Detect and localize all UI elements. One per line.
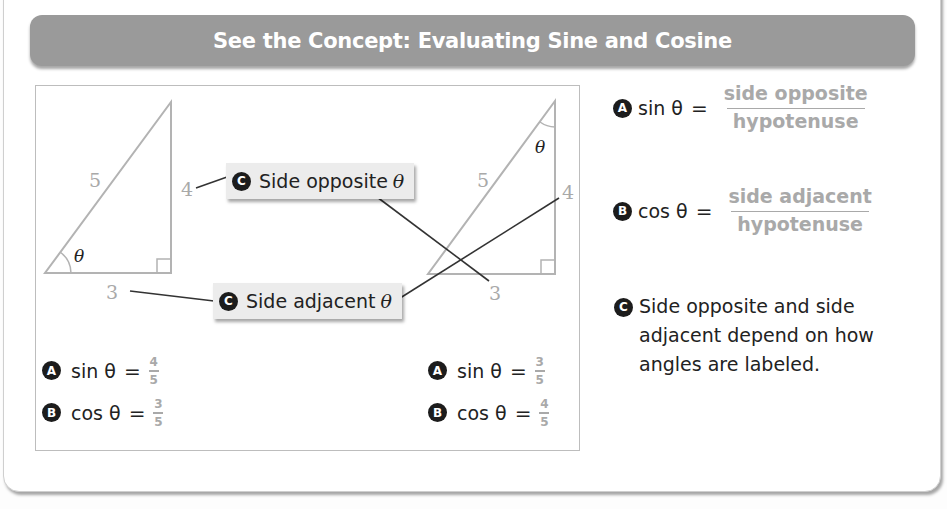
fraction: side opposite hypotenuse [724,84,868,132]
numerator: 4 [149,356,157,368]
badge-b-icon: B [42,403,61,422]
fraction: 4 5 [539,398,549,428]
labeling-note: C Side opposite and side adjacent depend… [614,292,894,379]
right-hypotenuse-label: 5 [477,171,489,190]
equals-sign: = [691,96,708,120]
function-label: sin θ [457,360,502,382]
function-label: cos θ [457,402,507,424]
right-angle-theta: θ [535,139,545,156]
denominator: 5 [149,374,157,386]
badge-c-icon: C [232,172,251,191]
badge-b-icon: B [428,403,447,422]
numerator: 3 [535,356,543,368]
function-label: cos θ [71,402,121,424]
badge-c-icon: C [219,292,238,311]
left-triangle [45,102,171,273]
denominator: hypotenuse [733,112,859,132]
right-cos-equation: B cos θ = 4 5 [428,398,549,428]
badge-a-icon: A [428,361,447,380]
left-sin-equation: A sin θ = 4 5 [42,356,159,386]
fraction: 3 5 [535,356,545,386]
badge-b-icon: B [613,202,632,221]
fraction: side adjacent hypotenuse [728,187,871,235]
denominator: 5 [535,374,543,386]
equals-sign: = [510,359,527,383]
right-base-label: 3 [489,284,501,303]
numerator: 4 [540,398,548,410]
badge-c-icon: C [614,298,633,317]
left-cos-equation: B cos θ = 3 5 [42,398,163,428]
left-angle-theta: θ [74,248,84,265]
left-adjacent-label: 3 [106,283,118,302]
callout-label: Side adjacent [246,290,375,312]
right-triangle [428,101,555,274]
fraction: 4 5 [149,356,159,386]
denominator: 5 [154,416,162,428]
numerator: side opposite [724,84,868,104]
function-label: sin θ [71,360,116,382]
equals-sign: = [696,199,713,223]
left-opposite-label: 4 [181,180,193,199]
theta-symbol: θ [393,170,404,192]
badge-a-icon: A [613,99,632,118]
right-vertical-label: 4 [562,183,574,202]
cosine-definition: B cos θ = side adjacent hypotenuse [613,187,872,235]
fraction: 3 5 [153,398,163,428]
sine-definition: A sin θ = side opposite hypotenuse [613,84,868,132]
function-label: cos θ [638,200,688,222]
callout-side-opposite: C Side opposite θ [226,163,414,199]
denominator: hypotenuse [737,215,863,235]
function-label: sin θ [638,97,683,119]
badge-a-icon: A [42,361,61,380]
left-hypotenuse-label: 5 [89,171,101,190]
theta-symbol: θ [380,290,391,312]
equals-sign: = [124,359,141,383]
numerator: 3 [154,398,162,410]
right-sin-equation: A sin θ = 3 5 [428,356,545,386]
triangles-diagram [0,0,947,509]
denominator: 5 [540,416,548,428]
note-text: Side opposite and side adjacent depend o… [639,292,894,379]
equals-sign: = [129,401,146,425]
numerator: side adjacent [728,187,871,207]
callout-label: Side opposite [259,170,388,192]
callout-side-adjacent: C Side adjacent θ [213,283,402,319]
equals-sign: = [515,401,532,425]
